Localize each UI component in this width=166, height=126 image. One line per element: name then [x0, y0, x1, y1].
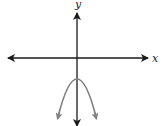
- parabola-left-arrow-icon: [58, 112, 60, 119]
- coordinate-plane: y x: [0, 0, 166, 126]
- x-axis-label: x: [152, 52, 159, 65]
- y-axis-label: y: [74, 0, 82, 11]
- parabola-right-arrow-icon: [95, 112, 97, 119]
